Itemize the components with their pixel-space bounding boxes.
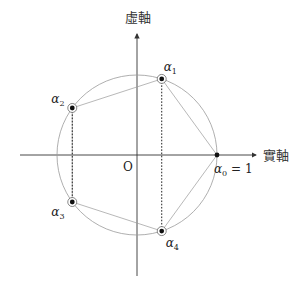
origin-label: O (123, 160, 133, 174)
root-alpha-2: α2 (51, 92, 77, 113)
root-point (215, 153, 220, 158)
pentagon-edge (162, 79, 217, 155)
root-subscript: 2 (59, 99, 64, 108)
roots-of-unity-diagram: α0 = 1α1α2α3α4 虛軸 實軸 O (0, 0, 302, 289)
root-suffix: = 1 (227, 162, 252, 176)
root-subscript: 3 (59, 212, 64, 221)
root-subscript: 4 (174, 243, 179, 252)
root-point (70, 200, 75, 205)
root-point (159, 229, 164, 234)
root-alpha-0: α0 = 1 (214, 153, 253, 178)
root-symbol: α (51, 92, 59, 106)
root-label: α4 (166, 236, 179, 252)
root-label: α0 = 1 (214, 162, 253, 178)
root-point (70, 106, 75, 111)
real-axis-label: 實軸 (263, 148, 289, 163)
pentagon-edge (162, 155, 217, 231)
root-symbol: α (164, 60, 172, 74)
root-symbol: α (51, 205, 59, 219)
imaginary-axis-label: 虛軸 (125, 10, 151, 25)
root-subscript: 1 (172, 67, 177, 76)
root-symbol: α (166, 236, 174, 250)
roots: α0 = 1α1α2α3α4 (51, 60, 252, 252)
root-point (159, 77, 164, 82)
root-label: α2 (51, 92, 64, 108)
root-label: α1 (164, 60, 177, 76)
root-label: α3 (51, 205, 64, 221)
root-alpha-1: α1 (157, 60, 177, 84)
root-symbol: α (214, 162, 222, 176)
root-alpha-4: α4 (157, 227, 179, 253)
root-alpha-3: α3 (51, 198, 77, 222)
